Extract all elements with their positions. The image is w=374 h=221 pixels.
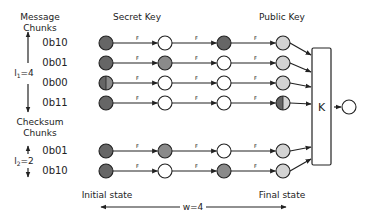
function-label: F bbox=[254, 143, 257, 149]
chain-row-message: FFF bbox=[99, 55, 311, 72]
function-label: F bbox=[254, 163, 257, 169]
function-label: F bbox=[254, 35, 257, 41]
state-node bbox=[158, 164, 172, 178]
public-key-node bbox=[276, 144, 290, 158]
state-node bbox=[217, 36, 231, 50]
state-node bbox=[217, 56, 231, 70]
function-label: F bbox=[195, 163, 198, 169]
function-label: F bbox=[195, 95, 198, 101]
state-node bbox=[158, 36, 172, 50]
chain-row-checksum: FFF bbox=[99, 143, 311, 158]
function-label: F bbox=[136, 143, 139, 149]
secret-key-node bbox=[99, 76, 113, 90]
output-node bbox=[342, 100, 356, 114]
w-label: w=4 bbox=[183, 202, 204, 212]
function-label: F bbox=[195, 55, 198, 61]
public-key-node bbox=[276, 56, 290, 70]
secret-key-node bbox=[99, 96, 113, 110]
function-label: F bbox=[254, 55, 257, 61]
state-node bbox=[217, 76, 231, 90]
secret-key-node bbox=[99, 36, 113, 50]
state-node bbox=[217, 96, 231, 110]
state-node bbox=[158, 76, 172, 90]
combine-edge bbox=[290, 103, 311, 104]
state-node bbox=[217, 164, 231, 178]
function-label: F bbox=[254, 75, 257, 81]
function-label: F bbox=[195, 75, 198, 81]
chain-rows: FFFFFFFFFFFFFFFFFF bbox=[99, 35, 311, 178]
public-key-node bbox=[276, 76, 290, 90]
combine-edge bbox=[290, 147, 311, 151]
function-label: F bbox=[136, 55, 139, 61]
state-node bbox=[158, 96, 172, 110]
hash-chain-diagram: w=4 FFFFFFFFFFFFFFFFFF K bbox=[0, 0, 374, 221]
chain-row-checksum: FFF bbox=[99, 159, 311, 178]
combine-edge bbox=[290, 159, 311, 171]
state-node bbox=[217, 144, 231, 158]
function-label: F bbox=[254, 95, 257, 101]
function-label: F bbox=[195, 35, 198, 41]
public-key-node bbox=[276, 96, 290, 110]
secret-key-node bbox=[99, 56, 113, 70]
public-key-node bbox=[276, 164, 290, 178]
combine-edge bbox=[290, 63, 311, 72]
public-key-node bbox=[276, 36, 290, 50]
state-node bbox=[158, 56, 172, 70]
secret-key-node bbox=[99, 144, 113, 158]
state-node bbox=[158, 144, 172, 158]
combiner-label: K bbox=[318, 101, 326, 114]
function-label: F bbox=[136, 35, 139, 41]
chain-row-message: FFF bbox=[99, 75, 311, 90]
chain-row-message: FFF bbox=[99, 35, 311, 55]
chain-row-message: FFF bbox=[99, 95, 311, 110]
combine-edge bbox=[290, 43, 311, 55]
function-label: F bbox=[136, 75, 139, 81]
secret-key-node bbox=[99, 164, 113, 178]
combine-edge bbox=[290, 83, 311, 87]
function-label: F bbox=[136, 163, 139, 169]
function-label: F bbox=[136, 95, 139, 101]
function-label: F bbox=[195, 143, 198, 149]
